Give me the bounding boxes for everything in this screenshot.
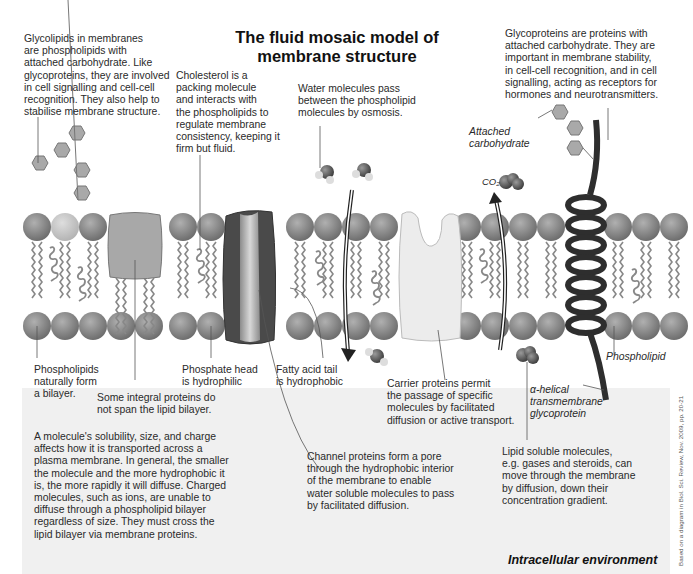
carrier-proteins-label: Carrier proteins permit the passage of s… xyxy=(387,378,514,427)
co2-label: CO₂ xyxy=(482,176,500,188)
alpha-helical-label: α-helical transmembrane glycoprotein xyxy=(530,384,603,421)
solubility-paragraph: A molecule's solubility, size, and charg… xyxy=(34,431,229,541)
page-title: The fluid mosaic model of membrane struc… xyxy=(232,28,442,66)
source-credit: Based on a diagram in Biol. Sci. Review,… xyxy=(677,396,684,566)
phospholipid-label: Phospholipid xyxy=(606,351,666,363)
glycolipids-label: Glycolipids in membranes are phospholipi… xyxy=(24,33,170,118)
carrier-protein xyxy=(399,212,462,341)
fatty-acid-tail-label: Fatty acid tail is hydrophobic xyxy=(276,364,343,388)
phospholipids-bilayer-label: Phospholipids naturally form a bilayer. xyxy=(34,364,99,401)
lipid-soluble-label: Lipid soluble molecules, e.g. gases and … xyxy=(502,446,635,507)
water-label: Water molecules pass between the phospho… xyxy=(298,83,416,120)
attached-carbohydrate-label: Attached carbohydrate xyxy=(469,126,530,150)
channel-proteins-label: Channel proteins form a pore through the… xyxy=(307,451,454,512)
glycoproteins-label: Glycoproteins are proteins with attached… xyxy=(505,28,658,101)
co2-molecule xyxy=(499,173,524,190)
intracellular-environment-label: Intracellular environment xyxy=(508,553,657,567)
integral-proteins-label: Some integral proteins do not span the l… xyxy=(97,392,215,416)
cholesterol-label: Cholesterol is a packing molecule and in… xyxy=(176,70,280,155)
alpha-helix-glycoprotein xyxy=(568,120,606,400)
lipid-soluble-molecule xyxy=(516,346,539,364)
phosphate-head-label: Phosphate head is hydrophilic xyxy=(182,364,258,388)
glycoprotein-carbohydrate xyxy=(552,105,594,160)
